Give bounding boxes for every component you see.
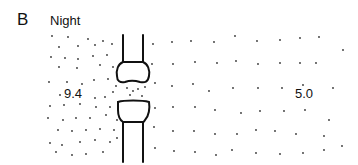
particle-dot xyxy=(99,64,101,66)
particle-dot xyxy=(81,83,83,85)
particle-dot xyxy=(279,153,281,155)
particle-dot xyxy=(111,43,113,45)
particle-dot xyxy=(279,39,281,41)
particle-dot xyxy=(58,66,60,68)
particle-dot xyxy=(171,85,173,87)
particle-dot xyxy=(93,79,95,81)
particle-dot xyxy=(116,137,118,139)
synapse-diagram xyxy=(0,0,358,165)
particle-dot xyxy=(109,141,111,143)
particle-dot xyxy=(113,129,115,131)
particle-dot xyxy=(67,36,69,38)
particle-dot xyxy=(208,90,210,92)
particle-dot xyxy=(99,128,101,130)
particle-dot xyxy=(194,151,196,153)
particle-dot xyxy=(173,150,175,152)
particle-dot xyxy=(85,129,87,131)
particle-dot xyxy=(214,133,216,135)
particle-dot xyxy=(94,97,96,99)
particle-dot xyxy=(50,56,52,58)
particle-dot xyxy=(257,63,259,65)
particle-dot xyxy=(104,96,106,98)
particle-dot xyxy=(64,57,66,59)
particle-dot xyxy=(48,81,50,83)
particle-dot xyxy=(299,62,301,64)
lower-process xyxy=(118,101,149,163)
particle-dot xyxy=(66,81,68,83)
particle-dot xyxy=(87,38,89,40)
particle-dot xyxy=(115,85,117,87)
particle-dot xyxy=(47,117,49,119)
particle-dot xyxy=(77,58,79,60)
particle-dot xyxy=(281,87,283,89)
particle-dot xyxy=(49,105,51,107)
left-region-value: 9.4 xyxy=(64,86,82,101)
right-region-value: 5.0 xyxy=(295,86,313,101)
particle-dot xyxy=(57,129,59,131)
particle-dot xyxy=(141,95,143,97)
particle-dot xyxy=(71,154,73,156)
particle-dot xyxy=(137,88,139,90)
particle-dot xyxy=(49,142,51,144)
particle-dot xyxy=(94,139,96,141)
particle-dot xyxy=(213,41,215,43)
particle-dot xyxy=(62,119,64,121)
particle-dot xyxy=(216,62,218,64)
particle-dot xyxy=(274,130,276,132)
particle-dot xyxy=(232,87,234,89)
particle-dot xyxy=(302,152,304,154)
particle-dot xyxy=(51,35,53,37)
particle-dot xyxy=(332,87,334,89)
particle-dot xyxy=(152,43,154,45)
particle-dot xyxy=(95,106,97,108)
particle-dot xyxy=(299,37,301,39)
particle-dot xyxy=(328,119,330,121)
particle-dot xyxy=(304,109,306,111)
particle-dot xyxy=(318,36,320,38)
particle-dot xyxy=(79,103,81,105)
particle-dot xyxy=(172,63,174,65)
particle-dot xyxy=(283,110,285,112)
particle-dot xyxy=(194,106,196,108)
particle-dot xyxy=(75,117,77,119)
particle-dot xyxy=(105,114,107,116)
particle-dot xyxy=(279,62,281,64)
particle-dot xyxy=(341,145,343,147)
particle-dot xyxy=(112,66,114,68)
particle-dot xyxy=(154,147,156,149)
particle-dot xyxy=(257,87,259,89)
particle-dot xyxy=(194,61,196,63)
particle-dot xyxy=(234,35,236,37)
particle-dot xyxy=(151,63,153,65)
particle-dot xyxy=(342,49,344,51)
particle-dot xyxy=(256,40,258,42)
particle-dot xyxy=(193,130,195,132)
particle-dot xyxy=(61,144,63,146)
particle-dot xyxy=(55,151,57,153)
particle-dot xyxy=(172,130,174,132)
particle-dot xyxy=(76,67,78,69)
particle-dot xyxy=(154,82,156,84)
particle-dot xyxy=(255,129,257,131)
particle-dot xyxy=(58,46,60,48)
particle-dot xyxy=(126,87,128,89)
particle-dot xyxy=(144,86,146,88)
particle-dot xyxy=(94,44,96,46)
particle-dot xyxy=(85,153,87,155)
particle-dot xyxy=(129,94,131,96)
particle-dot xyxy=(112,91,114,93)
particle-dot xyxy=(109,106,111,108)
upper-process xyxy=(117,35,150,82)
particle-dot xyxy=(240,112,242,114)
particle-dot xyxy=(255,152,257,154)
particle-dot xyxy=(79,141,81,143)
particle-dot xyxy=(236,133,238,135)
particle-dot xyxy=(59,94,61,96)
particle-dot xyxy=(215,154,217,156)
particle-dot xyxy=(172,106,174,108)
particle-dot xyxy=(132,90,134,92)
particle-dot xyxy=(171,41,173,43)
particle-dot xyxy=(102,40,104,42)
particle-dot xyxy=(89,117,91,119)
particle-dot xyxy=(102,151,104,153)
